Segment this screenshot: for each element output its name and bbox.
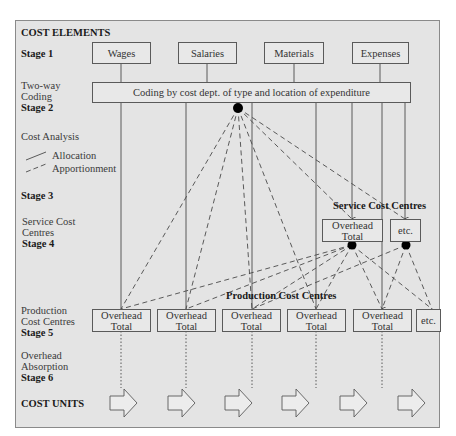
- cost-element-salaries: Salaries: [178, 42, 237, 64]
- cost-element-materials: Materials: [264, 42, 324, 64]
- stage-4-label: Service Cost Centres Stage 4: [22, 216, 75, 249]
- cost-element-expenses: Expenses: [352, 42, 409, 64]
- legend-allocation: Allocation: [52, 150, 96, 161]
- cost-element-wages: Wages: [92, 42, 151, 64]
- production-box-2: OverheadTotal: [157, 309, 216, 332]
- production-box-4: OverheadTotal: [287, 309, 346, 332]
- production-box-etc: etc.: [416, 309, 441, 332]
- service-box-overhead: Overhead Total: [322, 219, 383, 242]
- stage-3-label: Stage 3: [21, 190, 53, 201]
- production-box-3: OverheadTotal: [222, 309, 281, 332]
- service-box-etc: etc.: [390, 219, 421, 242]
- coding-box: Coding by cost dept. of type and locatio…: [92, 82, 411, 103]
- cost-units-label: COST UNITS: [21, 398, 84, 409]
- coding-node: [233, 103, 243, 113]
- production-box-5: OverheadTotal: [353, 309, 412, 332]
- stage-6-label: Overhead Absorption Stage 6: [21, 350, 68, 383]
- cost-unit-arrows: [110, 389, 425, 417]
- production-cost-centres-heading: Production Cost Centres: [226, 290, 336, 301]
- legend-apportionment: Apportionment: [52, 163, 116, 174]
- stage-2-label: Two-way Coding Stage 2: [21, 80, 61, 113]
- stage-1-label: Stage 1: [21, 48, 53, 59]
- production-box-1: OverheadTotal: [92, 309, 151, 332]
- title: COST ELEMENTS: [21, 27, 110, 38]
- cost-analysis-label: Cost Analysis: [21, 131, 79, 142]
- stage-5-label: Production Cost Centres Stage 5: [21, 305, 75, 338]
- service-cost-centres-heading: Service Cost Centres: [333, 200, 426, 211]
